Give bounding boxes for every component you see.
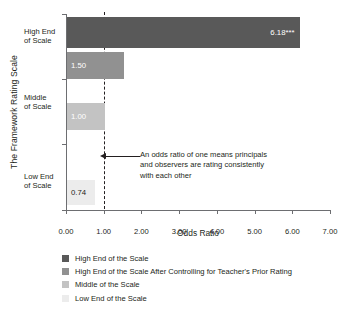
bar-value-number-high-end: 6.18: [270, 28, 285, 37]
legend: High End of the Scale High End of the Sc…: [62, 252, 292, 305]
bar-high-end-of-scale: 6.18***: [67, 17, 300, 48]
x-axis-tick: [66, 210, 67, 214]
y-category-label-middle-line1: Middle: [24, 93, 64, 102]
legend-swatch-icon: [62, 255, 69, 262]
legend-item: Low End of the Scale: [62, 292, 292, 305]
x-axis-line: [66, 210, 330, 211]
bar-value-label-low-end: 0.74: [67, 188, 86, 197]
x-axis-tick: [141, 210, 142, 214]
y-category-label-middle-line2: of Scale: [24, 102, 64, 111]
legend-swatch-icon: [62, 281, 69, 288]
y-axis-title-text: The Framework Rating Scale: [9, 55, 19, 169]
reference-line-annotation: An odds ratio of one means principals an…: [100, 150, 290, 181]
legend-item-label: Low End of the Scale: [75, 294, 147, 303]
x-axis-tick: [104, 210, 105, 214]
y-category-label-low-end-line2: of Scale: [24, 181, 64, 190]
annotation-line-2: and observers are rating consistently: [140, 160, 290, 170]
legend-item-label: Middle of the Scale: [75, 280, 140, 289]
y-axis-tick: [62, 14, 66, 15]
arrow-left-icon: [100, 152, 140, 161]
legend-item-label: High End of the Scale After Controlling …: [75, 267, 292, 276]
legend-item: Middle of the Scale: [62, 278, 292, 291]
reference-line-annotation-text: An odds ratio of one means principals an…: [140, 150, 290, 181]
bar-significance-stars-high-end: ***: [285, 28, 294, 37]
x-axis-tick: [217, 210, 218, 214]
y-axis-title: The Framework Rating Scale: [6, 14, 22, 210]
legend-item: High End of the Scale After Controlling …: [62, 265, 292, 278]
x-axis-tick: [292, 210, 293, 214]
x-axis-tick: [255, 210, 256, 214]
y-category-label-middle: Middle of Scale: [24, 93, 64, 111]
bar-value-label-high-end-controlled: 1.50: [67, 61, 86, 70]
y-category-label-high-end-line2: of Scale: [24, 36, 64, 45]
y-category-label-low-end: Low End of Scale: [24, 172, 64, 190]
legend-swatch-icon: [62, 295, 69, 302]
bar-value-label-high-end: 6.18***: [270, 28, 299, 37]
bar-value-label-middle: 1.00: [67, 112, 86, 121]
legend-item: High End of the Scale: [62, 252, 292, 265]
y-category-label-high-end: High End of Scale: [24, 27, 64, 45]
legend-item-label: High End of the Scale: [75, 254, 148, 263]
bar-low-end-of-scale: 0.74: [67, 180, 95, 205]
bar-high-end-controlled: 1.50: [67, 52, 124, 79]
x-axis-title: Odds Ratio: [66, 228, 330, 238]
y-axis-tick: [62, 144, 66, 145]
y-category-label-high-end-line1: High End: [24, 27, 64, 36]
y-axis-tick: [62, 79, 66, 80]
bar-middle-of-scale: 1.00: [67, 103, 105, 130]
x-axis-tick: [330, 210, 331, 214]
annotation-line-3: with each other: [140, 171, 290, 181]
y-category-label-low-end-line1: Low End: [24, 172, 64, 181]
x-axis-tick: [179, 210, 180, 214]
legend-swatch-icon: [62, 268, 69, 275]
annotation-line-1: An odds ratio of one means principals: [140, 150, 290, 160]
